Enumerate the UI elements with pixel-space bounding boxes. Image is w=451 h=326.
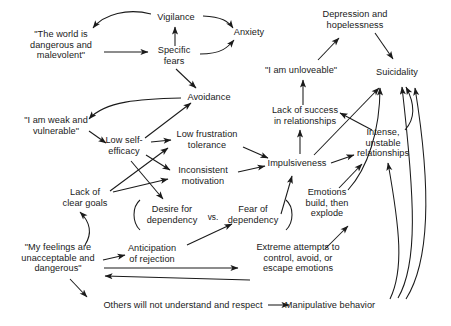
node-extreme-attempts[interactable]: Extreme attempts to control, avoid, or e… (256, 242, 339, 274)
node-inconsistent-motivation[interactable]: Inconsistent motivation (178, 165, 228, 186)
node-anticipation-rejection[interactable]: Anticipation of rejection (128, 243, 176, 264)
edge-weak-to-low-self-efficacy (89, 131, 106, 143)
edge-low-frustration-to-impulsiveness (243, 147, 268, 158)
edge-manipulative-to-intense (398, 87, 412, 298)
edge-lack-goals-to-inconsistent (113, 179, 168, 192)
edge-manipulative-to-emotions (388, 163, 399, 299)
edge-inconsistent-to-impulsiveness (238, 166, 265, 172)
node-lack-clear-goals[interactable]: Lack of clear goals (63, 187, 108, 208)
edge-low-self-efficacy-to-desire (131, 161, 163, 199)
node-manipulative-behavior[interactable]: Manipulative behavior (285, 300, 375, 311)
edge-extreme-to-my-feelings (105, 276, 250, 280)
node-anxiety[interactable]: Anxiety (234, 27, 264, 38)
edge-anticipation-to-fear-dependency (187, 224, 232, 245)
node-desire-dependency[interactable]: Desire for dependency (147, 204, 198, 225)
edge-fear-dependency-to-impulsiveness (281, 176, 292, 214)
edge-impulsiveness-to-intense (331, 155, 354, 163)
edge-vigilance-to-anxiety (203, 16, 233, 28)
right-paren-bracket (286, 200, 292, 230)
node-suicidality[interactable]: Suicidality (376, 67, 418, 78)
node-vigilance[interactable]: Vigilance (157, 12, 195, 23)
edge-avoidance-to-weak (89, 98, 181, 119)
node-unloveable[interactable]: "I am unloveable" (265, 65, 337, 76)
edge-my-feelings-to-lack-goals (80, 212, 89, 245)
left-paren-bracket (134, 200, 140, 230)
node-my-feelings[interactable]: "My feelings are unacceptable and danger… (21, 242, 94, 274)
edge-vigilance-to-world (93, 12, 151, 28)
node-weak-vulnerable[interactable]: "I am weak and vulnerable" (24, 115, 88, 136)
edge-low-self-efficacy-to-low-frustration (151, 140, 171, 142)
vs-label: vs. (208, 212, 219, 222)
node-low-frustration[interactable]: Low frustration tolerance (176, 129, 237, 150)
edge-my-feelings-to-anticipation (103, 255, 125, 260)
node-intense-unstable[interactable]: Intense, unstable relationships (357, 127, 409, 159)
edge-unloveable-to-depression (318, 38, 339, 60)
node-emotions-explode[interactable]: Emotions build, then explode (306, 187, 349, 219)
node-impulsiveness[interactable]: Impulsiveness (268, 158, 327, 169)
node-low-self-efficacy[interactable]: Low self- efficacy (105, 135, 142, 156)
node-world-dangerous[interactable]: "The world is dangerous and malevolent" (30, 29, 92, 61)
edge-specific-fears-to-anxiety (200, 40, 234, 54)
edge-specific-fears-to-avoidance (176, 69, 196, 88)
edge-depression-to-suicidality (375, 33, 393, 59)
node-others-not-understand[interactable]: Others will not understand and respect (103, 300, 262, 311)
edge-low-self-efficacy-to-inconsistent (146, 155, 170, 170)
node-avoidance[interactable]: Avoidance (187, 92, 230, 103)
node-specific-fears[interactable]: Specific fears (158, 45, 191, 66)
node-fear-dependency[interactable]: Fear of dependency (228, 204, 279, 225)
edge-my-feelings-to-others (70, 279, 87, 297)
concept-map-diagram: "The world is dangerous and malevolent" … (0, 0, 451, 326)
node-lack-success[interactable]: Lack of success in relationships (272, 105, 338, 126)
node-depression[interactable]: Depression and hopelessness (322, 9, 387, 30)
